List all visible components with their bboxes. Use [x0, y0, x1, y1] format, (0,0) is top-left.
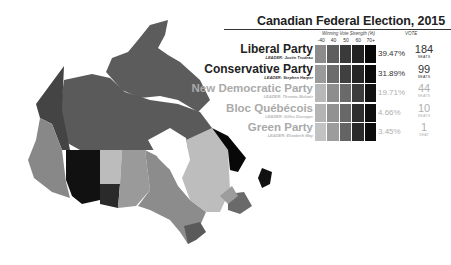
map-region-sask-south	[100, 184, 120, 208]
strength-swatch	[327, 65, 338, 83]
seat-number: 10	[413, 103, 435, 114]
party-leader: LEADER: Thomas Mulcair	[264, 94, 313, 99]
party-leader: LEADER: Gilles Duceppe	[265, 114, 313, 119]
tick-label: 50	[340, 37, 352, 43]
tick-label: 60	[352, 37, 364, 43]
strength-swatch	[365, 104, 376, 122]
vote-percent: 39.47%	[378, 49, 405, 58]
strength-swatch	[352, 45, 363, 63]
map-region-alberta	[66, 150, 100, 204]
strength-swatch	[365, 45, 376, 63]
strength-swatch	[340, 84, 351, 102]
tick-label: 70+	[365, 37, 377, 43]
seat-number: 1	[413, 122, 435, 133]
seat-label: SEATS	[413, 94, 435, 98]
seat-number: 44	[413, 83, 435, 94]
party-row: Green Party LEADER: Elizabeth May 3.45% …	[200, 122, 451, 142]
strength-swatch	[352, 65, 363, 83]
strength-swatches	[315, 84, 376, 102]
strength-swatch	[365, 123, 376, 141]
seat-count: 184 SEATS	[413, 44, 435, 59]
strength-swatch	[352, 104, 363, 122]
seat-label: SEATS	[413, 75, 435, 79]
seat-label: SEATS	[413, 114, 435, 118]
strength-swatches	[315, 123, 376, 141]
party-name: Green Party	[248, 122, 313, 132]
seat-count: 99 SEATS	[413, 64, 435, 79]
party-leader: LEADER: Justin Trudeau	[266, 55, 314, 60]
strength-swatch	[315, 123, 326, 141]
seat-number: 99	[413, 64, 435, 75]
party-name: Bloc Québécois	[226, 103, 313, 113]
map-region-saskatchewan	[100, 150, 122, 184]
strength-swatch	[340, 123, 351, 141]
party-leader: LEADER: Elizabeth May	[268, 133, 313, 138]
strength-swatch	[327, 123, 338, 141]
strength-header: Winning Vote Strength (%)	[322, 31, 375, 36]
party-name: New Democratic Party	[192, 83, 313, 93]
vote-percent: 4.66%	[378, 108, 401, 117]
strength-swatch	[352, 84, 363, 102]
strength-swatches	[315, 104, 376, 122]
map-region-newfoundland	[258, 168, 272, 188]
strength-swatch	[315, 65, 326, 83]
strength-swatches	[315, 45, 376, 63]
seat-count: 1 SEAT	[413, 122, 435, 137]
party-row: New Democratic Party LEADER: Thomas Mulc…	[200, 83, 451, 103]
strength-swatch	[315, 104, 326, 122]
strength-swatch	[365, 84, 376, 102]
seat-number: 184	[413, 44, 435, 55]
vote-header: VOTE	[405, 31, 417, 36]
party-row: Bloc Québécois LEADER: Gilles Duceppe 4.…	[200, 103, 451, 123]
strength-swatches	[315, 65, 376, 83]
party-name: Liberal Party	[240, 44, 313, 54]
strength-swatch	[315, 84, 326, 102]
strength-swatch	[315, 45, 326, 63]
strength-swatch	[365, 65, 376, 83]
vote-percent: 19.71%	[378, 88, 405, 97]
tick-label: 40	[327, 37, 339, 43]
strength-swatch	[340, 65, 351, 83]
seat-count: 10 SEATS	[413, 103, 435, 118]
party-row: Liberal Party LEADER: Justin Trudeau 39.…	[200, 44, 451, 64]
strength-swatch	[327, 104, 338, 122]
vote-percent: 3.45%	[378, 127, 401, 136]
strength-ticks: -40 40 50 60 70+	[315, 37, 377, 43]
chart-title: Canadian Federal Election, 2015	[257, 14, 445, 28]
vote-percent: 31.89%	[378, 69, 405, 78]
strength-swatch	[327, 45, 338, 63]
seat-label: SEATS	[413, 55, 435, 59]
seat-label: SEAT	[413, 133, 435, 137]
map-region-south-ontario	[184, 222, 206, 244]
strength-swatch	[340, 45, 351, 63]
party-row: Conservative Party LEADER: Stephen Harpe…	[200, 64, 451, 84]
strength-swatch	[352, 123, 363, 141]
seat-count: 44 SEATS	[413, 83, 435, 98]
title-divider	[224, 29, 451, 30]
tick-label: -40	[315, 37, 327, 43]
strength-swatch	[327, 84, 338, 102]
party-name: Conservative Party	[204, 64, 313, 74]
strength-swatch	[340, 104, 351, 122]
party-leader: LEADER: Stephen Harper	[264, 75, 313, 80]
